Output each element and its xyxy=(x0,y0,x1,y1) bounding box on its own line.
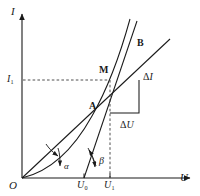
x-tick-label-u1-subscript: 1 xyxy=(111,184,114,191)
x-axis-label: U xyxy=(180,172,188,183)
delta-u-label: ΔU xyxy=(120,120,134,130)
increment-triangle xyxy=(110,80,139,113)
angle-label-beta: β xyxy=(99,156,104,166)
delta-i-label: ΔI xyxy=(143,72,153,82)
point-label-m: M xyxy=(99,65,108,75)
y-tick-label-i1-subscript: 1 xyxy=(11,78,14,85)
origin-label: O xyxy=(9,180,17,191)
x-tick-label-u0-subscript: 0 xyxy=(84,184,87,191)
figure-canvas xyxy=(0,0,200,196)
x-tick-label-u0: U0 xyxy=(77,180,87,190)
y-axis-label: I xyxy=(11,6,15,17)
alpha-leader-arrow xyxy=(58,148,60,166)
delta-i-variable: I xyxy=(149,71,152,82)
iv-characteristic-figure: I U O I1 U0 U1 M A B α β ΔI ΔU xyxy=(0,0,200,196)
y-tick-label-i1: I1 xyxy=(7,74,13,84)
delta-u-variable: U xyxy=(126,119,133,130)
y-tick-label-i1-base: I xyxy=(7,73,10,84)
characteristic-curve xyxy=(22,19,130,178)
point-label-b: B xyxy=(137,38,144,48)
angle-label-alpha: α xyxy=(64,162,69,171)
x-tick-label-u1: U1 xyxy=(104,180,114,190)
point-label-a: A xyxy=(89,101,96,111)
